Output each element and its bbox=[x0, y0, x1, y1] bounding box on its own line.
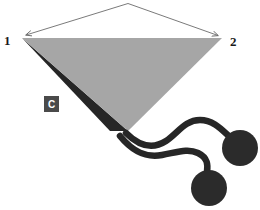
span-arrow-to-vertex-1 bbox=[26, 4, 128, 36]
vertex-label-2: 2 bbox=[230, 34, 237, 49]
diagram-svg: 1 2 C bbox=[0, 0, 260, 210]
span-arrow-to-vertex-2 bbox=[128, 4, 218, 36]
sphere-upper-right bbox=[222, 130, 258, 166]
vertex-label-1: 1 bbox=[4, 33, 11, 48]
cone-light-face bbox=[22, 38, 222, 131]
sphere-group bbox=[191, 130, 258, 206]
figure-canvas: 1 2 C bbox=[0, 0, 260, 210]
connector-upper bbox=[126, 120, 231, 146]
badge-c-letter: C bbox=[48, 99, 55, 110]
sphere-lower-left bbox=[191, 170, 227, 206]
connector-group bbox=[120, 120, 231, 172]
badge-c: C bbox=[44, 96, 59, 112]
span-arrow-group bbox=[26, 4, 218, 36]
